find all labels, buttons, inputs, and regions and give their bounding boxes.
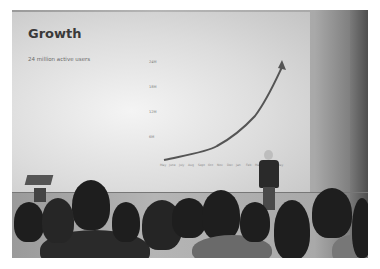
- arrow-head-icon: [278, 60, 286, 70]
- audience: [12, 180, 368, 258]
- photograph: Growth 24 million active users 24M 18M 1…: [12, 10, 368, 258]
